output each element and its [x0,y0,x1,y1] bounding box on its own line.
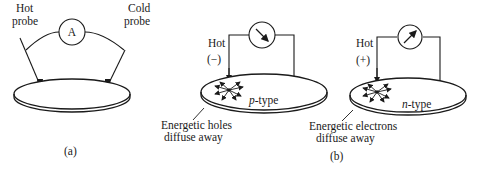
cold-probe-label-line2: probe [124,15,150,28]
polarity-p: (−) [207,53,221,66]
caption-a: (a) [64,145,77,158]
hot-label-p: Hot [208,37,226,49]
ammeter-icon: A [59,19,85,45]
hot-probe-label-line1: Hot [16,2,34,14]
figure-b-p-type: Hot (−) p-type Energetic h [161,22,327,144]
ammeter-symbol: A [68,26,77,38]
cold-probe-label-line1: Cold [128,2,151,14]
material-label-n: n-type [402,98,431,111]
figure-b-n-type: Hot (+) n-type Energetic electrons di [309,25,466,145]
polarity-n: (+) [356,54,370,67]
figure-a: Hot probe Cold probe A (a) [12,2,151,158]
hot-label-n: Hot [356,37,374,49]
caption-b: (b) [330,150,344,163]
material-label-p: p-type [248,94,278,107]
semiconductor-sample [14,79,130,112]
hot-probe-label-line2: probe [12,15,38,28]
annotation-p-line2: diffuse away [164,131,223,144]
annotation-n-line2: diffuse away [316,132,375,145]
hot-probe [20,38,40,85]
galvanometer-icon [398,25,422,49]
hot-probe-diagram: Hot probe Cold probe A (a) Hot (−) [0,0,479,169]
galvanometer-icon [249,22,275,48]
wire-left [26,32,59,50]
wire-right [85,32,124,50]
